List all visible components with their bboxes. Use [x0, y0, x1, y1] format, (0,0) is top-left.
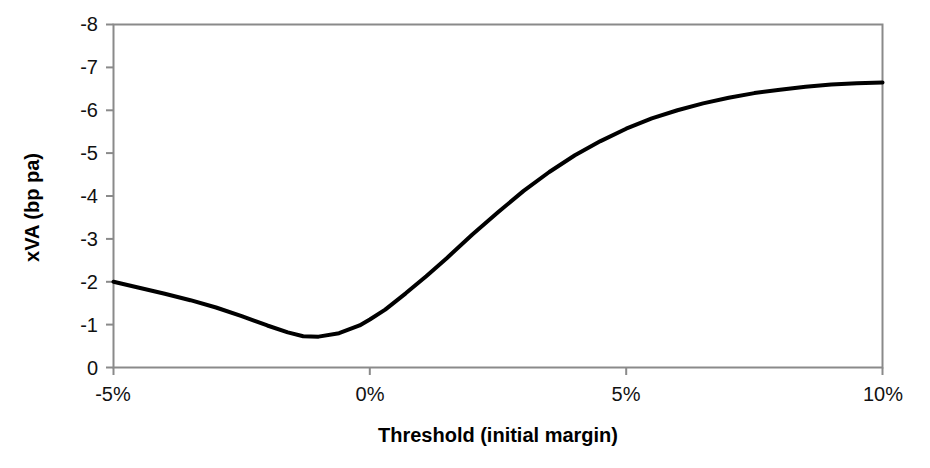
x-tick-label: -5% [95, 383, 131, 406]
y-tick-label: -6 [46, 99, 98, 122]
y-tick-label: -2 [46, 271, 98, 294]
data-series-line [114, 82, 883, 336]
plot-frame [114, 25, 883, 368]
chart-plot-area [0, 0, 930, 468]
x-tick-label: 5% [612, 383, 641, 406]
y-axis-ticks [106, 25, 114, 368]
x-tick-label: 0% [356, 383, 385, 406]
y-tick-label: 0 [46, 357, 98, 380]
x-axis-title: Threshold (initial margin) [113, 424, 883, 447]
y-tick-label: -3 [46, 228, 98, 251]
y-tick-label: -5 [46, 142, 98, 165]
y-tick-label: -7 [46, 56, 98, 79]
y-axis-title: xVA (bp pa) [21, 88, 44, 328]
x-tick-label: 10% [863, 383, 903, 406]
y-tick-label: -8 [46, 13, 98, 36]
x-axis-ticks [114, 368, 883, 376]
y-tick-label: -4 [46, 185, 98, 208]
y-tick-label: -1 [46, 314, 98, 337]
chart-container: -8 -7 -6 -5 -4 -3 -2 -1 0 -5% 0% 5% 10% … [0, 0, 930, 468]
